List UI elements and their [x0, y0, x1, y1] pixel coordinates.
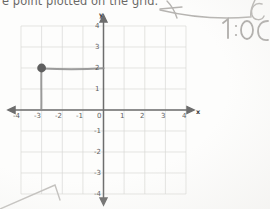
x-tick-label--3: -3 — [34, 112, 41, 120]
pencil-colon-bottom — [235, 34, 237, 36]
plotted-point-marker[interactable] — [37, 64, 46, 73]
pencil-colon-top — [235, 25, 237, 27]
axis-lines — [8, 15, 194, 205]
x-tick-label-0: 0 — [97, 112, 101, 120]
scanned-worksheet-page: e point plotted on the grid. — [0, 0, 270, 209]
y-tick-label-4: 4 — [95, 22, 99, 30]
x-tick-label--4: -4 — [13, 112, 20, 120]
x-tick-label-3: 3 — [161, 112, 165, 120]
x-tick-label-2: 2 — [140, 112, 144, 120]
y-tick-label--1: -1 — [94, 127, 101, 135]
pencil-stroke-one — [251, 0, 255, 17]
x-tick-label--1: -1 — [76, 112, 83, 120]
pencil-stroke-curve — [160, 10, 250, 18]
handwriting-top-right — [160, 0, 264, 20]
y-tick-label--2: -2 — [94, 148, 101, 156]
pencil-stroke-six — [252, 4, 264, 20]
pencil-stroke-angle-bottom-left — [0, 185, 60, 209]
coordinate-plane: -4 -3 -2 -1 0 1 2 3 4 4 3 2 1 -1 -2 -3 -… — [0, 0, 270, 209]
y-tick-label--3: -3 — [94, 169, 101, 177]
coordinate-plane-svg — [0, 0, 270, 209]
y-tick-label--4: -4 — [94, 190, 101, 198]
y-tick-label-3: 3 — [95, 43, 99, 51]
handwriting-bottom-left — [0, 185, 60, 209]
pencil-stroke-cross-2 — [160, 7, 182, 9]
handwriting-time-note — [223, 19, 268, 40]
x-tick-label-4: 4 — [182, 112, 186, 120]
y-axis-arrow-down — [100, 198, 107, 205]
y-axis-label: y — [99, 11, 103, 19]
x-tick-label--2: -2 — [55, 112, 62, 120]
x-axis-label: x — [196, 108, 200, 116]
y-tick-label-2: 2 — [95, 64, 99, 72]
pencil-digit-one — [223, 19, 228, 38]
pencil-digit-zero-2 — [258, 21, 268, 40]
x-axis-arrow-right — [187, 107, 194, 114]
y-tick-label-1: 1 — [95, 85, 99, 93]
x-tick-label-1: 1 — [120, 112, 124, 120]
pencil-stroke-cross-1 — [167, 1, 177, 18]
pencil-digit-zero-1 — [241, 21, 253, 39]
